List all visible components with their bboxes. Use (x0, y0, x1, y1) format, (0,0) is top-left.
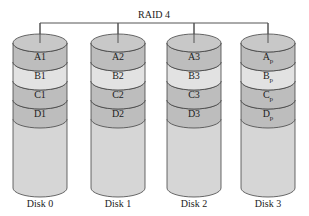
disk-body (91, 119, 145, 197)
disk-label: Disk 0 (27, 198, 53, 209)
disk-1: D2C2B2A2Disk 1 (91, 23, 145, 209)
disk-0: D1C1B1A1Disk 0 (13, 23, 67, 209)
diagram-title: RAID 4 (138, 9, 170, 20)
disk-label: Disk 3 (255, 198, 281, 209)
disk-3: DpCpBpApDisk 3 (241, 23, 295, 209)
disk-label: Disk 2 (181, 198, 207, 209)
disk-label: Disk 1 (105, 198, 131, 209)
disk-2: D3C3B3A3Disk 2 (167, 23, 221, 209)
disk-body (13, 119, 67, 197)
disk-body (167, 119, 221, 197)
disk-body (241, 119, 295, 197)
raid4-diagram: RAID 4 D1C1B1A1Disk 0D2C2B2A2Disk 1D3C3B… (0, 0, 309, 216)
raid-bus (40, 23, 268, 44)
